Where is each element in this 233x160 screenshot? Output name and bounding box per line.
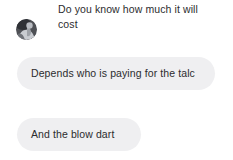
- message-text-2: Depends who is paying for the talc: [31, 66, 201, 81]
- message-bubble-3[interactable]: And the blow dart: [17, 118, 141, 151]
- message-bubble-2[interactable]: Depends who is paying for the talc: [17, 57, 215, 90]
- contact-avatar[interactable]: [16, 19, 37, 40]
- message-text-1: Do you know how much it will cost: [58, 2, 218, 32]
- message-thread: Do you know how much it will cost Depend…: [0, 0, 233, 160]
- message-text-3: And the blow dart: [31, 127, 127, 142]
